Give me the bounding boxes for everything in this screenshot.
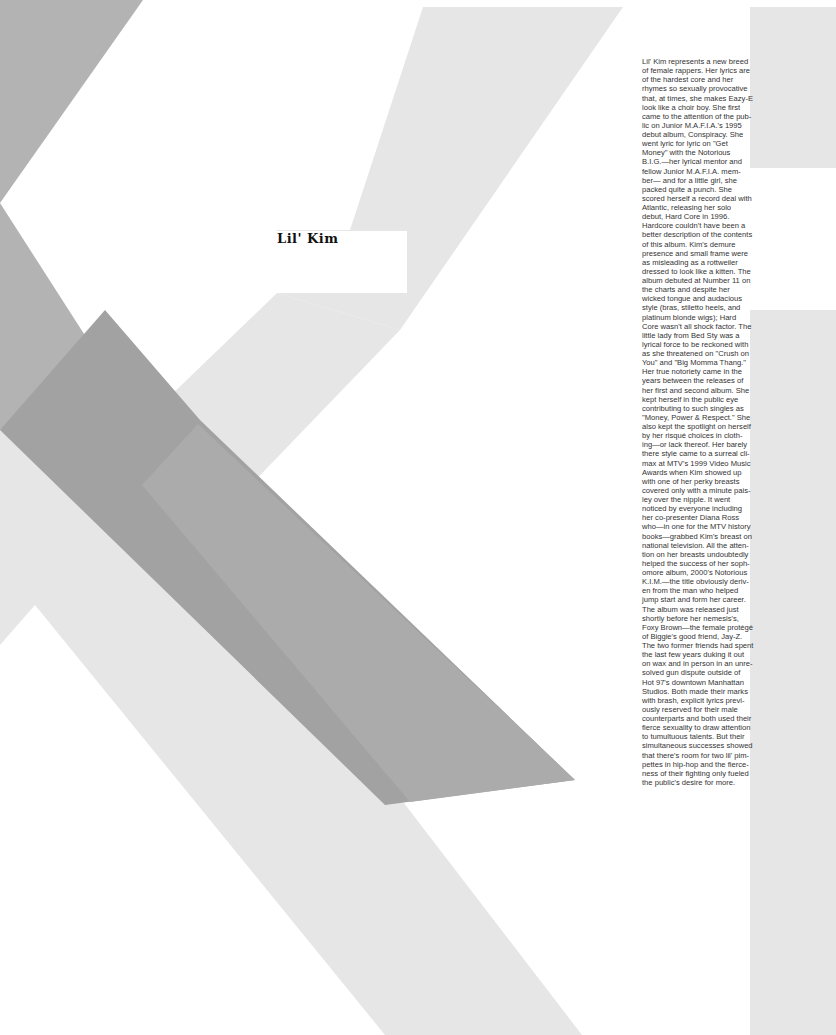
body-line: came to the attention of the pub- xyxy=(642,112,792,121)
body-line: presence and small frame were xyxy=(642,249,792,258)
article-body: Lil' Kim represents a new breedof female… xyxy=(642,57,792,787)
body-line: Hardcore couldn't have been a xyxy=(642,221,792,230)
body-line: omore album, 2000's Notorious xyxy=(642,568,792,577)
body-line: style (bras, stiletto heels, and xyxy=(642,303,792,312)
body-line: "Money, Power & Respect." She xyxy=(642,413,792,422)
body-line: pettes in hip-hop and the fierce- xyxy=(642,760,792,769)
body-line: look like a choir boy. She first xyxy=(642,103,792,112)
body-line: Lil' Kim represents a new breed xyxy=(642,57,792,66)
body-line: better description of the contents xyxy=(642,230,792,239)
body-line: platinum blonde wigs); Hard xyxy=(642,313,792,322)
article-title: Lil' Kim xyxy=(277,231,407,293)
body-line: there style came to a surreal cli- xyxy=(642,449,792,458)
body-line: the last few years duking it out xyxy=(642,650,792,659)
body-line: the charts and despite her xyxy=(642,285,792,294)
body-line: contributing to such singles as xyxy=(642,404,792,413)
body-line: years between the releases of xyxy=(642,376,792,385)
body-line: counterparts and both used their xyxy=(642,714,792,723)
body-line: who—in one for the MTV history xyxy=(642,522,792,531)
body-line: of female rappers. Her lyrics are xyxy=(642,66,792,75)
body-line: Awards when Kim showed up xyxy=(642,468,792,477)
body-line: lic on Junior M.A.F.I.A.'s 1995 xyxy=(642,121,792,130)
body-line: en from the man who helped xyxy=(642,586,792,595)
body-line: of this album. Kim's demure xyxy=(642,240,792,249)
body-line: noticed by everyone including xyxy=(642,504,792,513)
body-line: scored herself a record deal with xyxy=(642,194,792,203)
body-line: covered only with a minute pais- xyxy=(642,486,792,495)
body-line: her first and second album. She xyxy=(642,386,792,395)
body-line: ley over the nipple. It went xyxy=(642,495,792,504)
body-line: packed quite a punch. She xyxy=(642,185,792,194)
body-line: K.I.M.—the title obviously deriv- xyxy=(642,577,792,586)
body-line: shortly before her nemesis's, xyxy=(642,614,792,623)
body-line: ously reserved for their male xyxy=(642,705,792,714)
body-line: wicked tongue and audacious xyxy=(642,294,792,303)
body-line: simultaneous successes showed xyxy=(642,741,792,750)
body-line: Atlantic, releasing her solo xyxy=(642,203,792,212)
body-line: tion on her breasts undoubtedly xyxy=(642,550,792,559)
body-line: books—grabbed Kim's breast on xyxy=(642,532,792,541)
body-line: that there's room for two lil' pim- xyxy=(642,751,792,760)
body-line: You" and "Big Momma Thang." xyxy=(642,358,792,367)
body-line: helped the success of her soph- xyxy=(642,559,792,568)
body-line: little lady from Bed Sty was a xyxy=(642,331,792,340)
body-line: The two former friends had spent xyxy=(642,641,792,650)
body-line: on wax and in person in an unre- xyxy=(642,659,792,668)
body-line: fierce sexuality to draw attention xyxy=(642,723,792,732)
body-line: B.I.G.—her lyrical mentor and xyxy=(642,157,792,166)
body-line: Her true notoriety came in the xyxy=(642,367,792,376)
body-line: of Biggie's good friend, Jay-Z. xyxy=(642,632,792,641)
body-line: lyrical force to be reckoned with xyxy=(642,340,792,349)
body-line: jump start and form her career. xyxy=(642,595,792,604)
body-line: ber— and for a little girl, she xyxy=(642,176,792,185)
body-line: with one of her perky breasts xyxy=(642,477,792,486)
body-line: of the hardest core and her xyxy=(642,75,792,84)
body-line: fellow Junior M.A.F.I.A. mem- xyxy=(642,167,792,176)
body-line: album debuted at Number 11 on xyxy=(642,276,792,285)
body-line: Core wasn't all shock factor. The xyxy=(642,322,792,331)
body-line: the public's desire for more. xyxy=(642,778,792,787)
body-line: Money" with the Notorious xyxy=(642,148,792,157)
body-line: Foxy Brown—the female protégé xyxy=(642,623,792,632)
body-line: solved gun dispute outside of xyxy=(642,668,792,677)
body-line: her co-presenter Diana Ross xyxy=(642,513,792,522)
body-line: kept herself in the public eye xyxy=(642,395,792,404)
body-line: as she threatened on "Crush on xyxy=(642,349,792,358)
body-line: national television. All the atten- xyxy=(642,541,792,550)
body-line: rhymes so sexually provocative xyxy=(642,84,792,93)
body-line: ing—or lack thereof. Her barely xyxy=(642,440,792,449)
body-line: as misleading as a rottweiler xyxy=(642,258,792,267)
body-line: ness of their fighting only fueled xyxy=(642,769,792,778)
body-line: dressed to look like a kitten. The xyxy=(642,267,792,276)
body-line: Studios. Both made their marks xyxy=(642,687,792,696)
body-line: that, at times, she makes Eazy-E xyxy=(642,94,792,103)
body-line: max at MTV's 1999 Video Music xyxy=(642,459,792,468)
body-line: to tumultuous talents. But their xyxy=(642,732,792,741)
body-line: also kept the spotlight on herself xyxy=(642,422,792,431)
body-line: debut album, Conspiracy. She xyxy=(642,130,792,139)
body-line: by her risqué choices in cloth- xyxy=(642,431,792,440)
body-line: with brash, explicit lyrics previ- xyxy=(642,696,792,705)
body-line: The album was released just xyxy=(642,605,792,614)
body-line: Hot 97's downtown Manhattan xyxy=(642,678,792,687)
body-line: went lyric for lyric on "Get xyxy=(642,139,792,148)
body-line: debut, Hard Core in 1996. xyxy=(642,212,792,221)
top-left-gray-wedge xyxy=(0,0,143,203)
